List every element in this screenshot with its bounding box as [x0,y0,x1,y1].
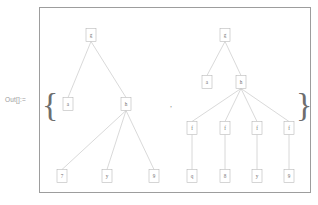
tree-node[interactable]: a [202,76,212,89]
tree-node-label: h [125,101,128,107]
tree-node[interactable]: f [284,122,294,135]
left-tree: gah7y9 [57,29,159,183]
tree-node-label: g [224,32,227,38]
output-cell: Out[]:= { , } gah7y9gahffffq8y9 [0,0,318,205]
tree-node-label: y [256,173,259,179]
tree-node-label: f [288,125,290,131]
tree-node-label: f [224,125,226,131]
tree-node[interactable]: h [236,76,246,89]
tree-node[interactable]: 8 [220,170,230,183]
tree-node[interactable]: y [102,170,112,183]
tree-node-label: 9 [288,173,291,179]
tree-edge [225,42,241,76]
tree-node[interactable]: f [187,122,197,135]
tree-node[interactable]: a [63,98,73,111]
tree-node[interactable]: q [187,170,197,183]
tree-edge [192,89,241,122]
tree-node[interactable]: 9 [149,170,159,183]
tree-edge [225,89,241,122]
right-tree: gahffffq8y9 [187,29,294,183]
tree-node-label: f [191,125,193,131]
tree-node[interactable]: f [220,122,230,135]
tree-node[interactable]: 9 [284,170,294,183]
tree-node-label: g [90,32,93,38]
tree-node-label: f [256,125,258,131]
tree-node[interactable]: h [121,98,131,111]
tree-node-label: h [240,79,243,85]
tree-node-label: 8 [224,173,227,179]
tree-node[interactable]: g [220,29,230,42]
tree-node[interactable]: 7 [57,170,67,183]
tree-edge [241,89,257,122]
tree-edge [91,42,126,98]
tree-node-label: q [191,173,194,179]
tree-node[interactable]: f [252,122,262,135]
tree-node-label: y [106,173,109,179]
tree-edge [207,42,225,76]
tree-edge [126,111,154,170]
tree-edge [68,42,91,98]
tree-node[interactable]: y [252,170,262,183]
tree-node-label: 9 [153,173,156,179]
tree-node[interactable]: g [86,29,96,42]
tree-edge [241,89,289,122]
tree-graphics-layer: gah7y9gahffffq8y9 [0,0,318,205]
tree-node-label: 7 [61,173,64,179]
